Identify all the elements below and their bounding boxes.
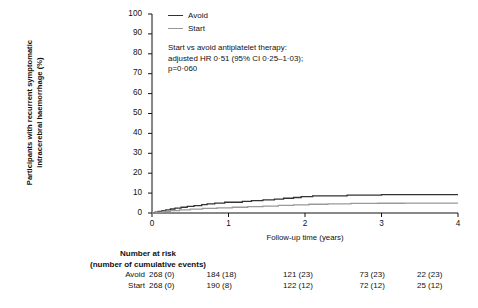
y-axis-tick-label: 10 (116, 188, 142, 197)
risk-table-row-label: Avoid (60, 270, 145, 279)
risk-table-title-line-2: (number of cumulative events) (0, 260, 296, 271)
x-axis-tick-label: 2 (295, 219, 315, 228)
risk-table-cell: 72 (12) (360, 281, 385, 290)
legend-line-swatch (168, 15, 183, 16)
risk-table-cell: 122 (12) (283, 281, 313, 290)
risk-table-row-label: Start (60, 281, 145, 290)
y-axis-tick-label: 80 (116, 48, 142, 57)
number-at-risk-table: Number at risk (number of cumulative eve… (0, 249, 478, 292)
x-axis-tick-label: 1 (219, 219, 239, 228)
legend-item-start: Start (168, 23, 208, 34)
risk-table-row: Start268 (0)190 (8)122 (12)72 (12)25 (12… (0, 281, 478, 292)
risk-table-cell: 190 (8) (207, 281, 232, 290)
risk-table-cell: 22 (23) (417, 270, 442, 279)
y-axis-tick-label: 100 (116, 9, 142, 18)
y-axis-tick-label: 70 (116, 68, 142, 77)
risk-table-cell: 25 (12) (417, 281, 442, 290)
annotation-line-3: p=0·060 (168, 64, 303, 75)
risk-table-cell: 268 (0) (149, 270, 174, 279)
risk-table-title-line-1: Number at risk (0, 249, 296, 260)
y-axis-tick-label: 20 (116, 168, 142, 177)
legend-label: Avoid (188, 11, 208, 20)
legend-label: Start (188, 24, 205, 33)
legend-line-swatch (168, 28, 183, 29)
annotation-line-2: adjusted HR 0·51 (95% CI 0·25–1·03); (168, 54, 303, 65)
risk-table-rows: Avoid268 (0)184 (18)121 (23)73 (23)22 (2… (0, 270, 478, 292)
risk-table-cell: 73 (23) (360, 270, 385, 279)
y-axis-tick-label: 50 (116, 108, 142, 117)
risk-table-title: Number at risk (number of cumulative eve… (0, 249, 296, 270)
x-axis-tick-label: 3 (372, 219, 392, 228)
y-axis-tick-label: 60 (116, 88, 142, 97)
curve-start (152, 203, 458, 213)
kaplan-meier-figure: Participants with recurrent symptomatic … (0, 0, 478, 308)
y-axis-tick-label: 0 (116, 208, 142, 217)
annotation-line-1: Start vs avoid antiplatelet therapy: (168, 43, 303, 54)
legend: AvoidStart (168, 10, 208, 36)
risk-table-cell: 121 (23) (283, 270, 313, 279)
y-axis-tick-label: 40 (116, 128, 142, 137)
curve-avoid (152, 195, 458, 213)
risk-table-row: Avoid268 (0)184 (18)121 (23)73 (23)22 (2… (0, 270, 478, 281)
y-axis-tick-label: 90 (116, 28, 142, 37)
x-axis-title: Follow-up time (years) (225, 233, 385, 242)
x-axis-tick-label: 4 (448, 219, 468, 228)
legend-item-avoid: Avoid (168, 10, 208, 21)
risk-table-cell: 268 (0) (149, 281, 174, 290)
risk-table-cell: 184 (18) (207, 270, 237, 279)
x-axis-tick-label: 0 (142, 219, 162, 228)
statistics-annotation: Start vs avoid antiplatelet therapy: adj… (168, 43, 303, 75)
y-axis-tick-label: 30 (116, 148, 142, 157)
